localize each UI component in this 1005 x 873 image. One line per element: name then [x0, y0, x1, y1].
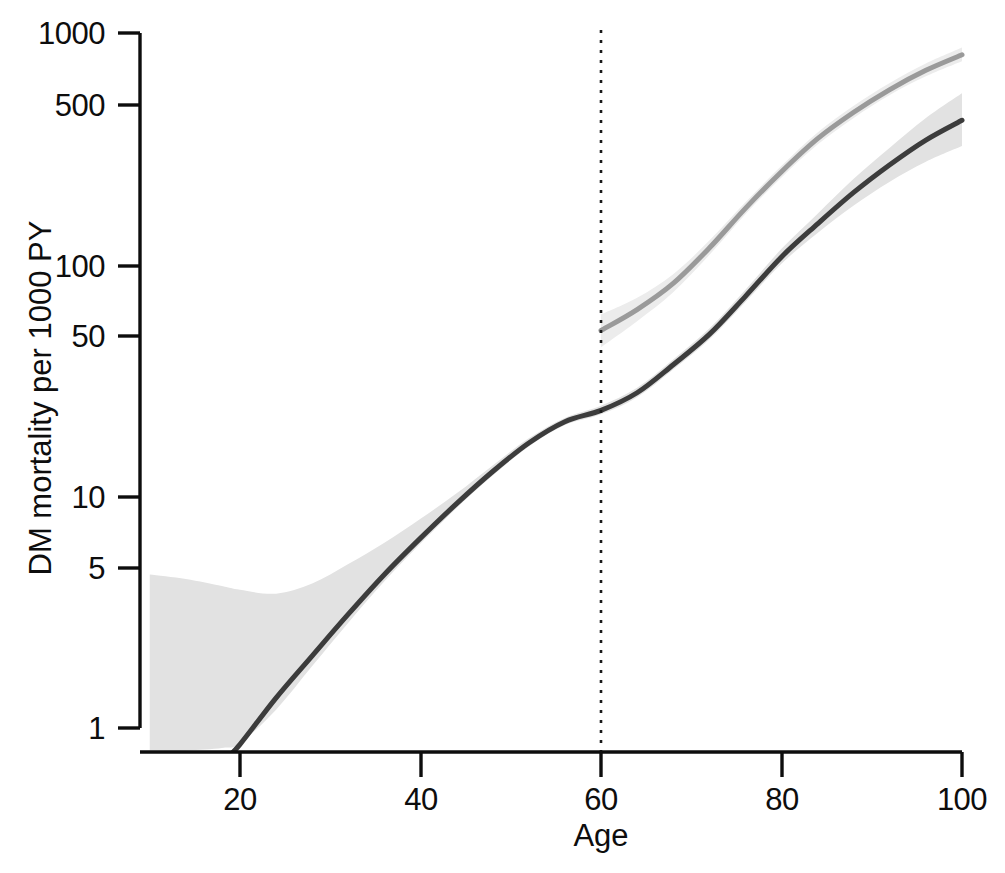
x-axis-title: Age [240, 818, 962, 854]
x-tick-label-60: 60 [584, 784, 617, 815]
y-axis [118, 33, 140, 728]
y-axis-title: DM mortality per 1000 PY [23, 118, 59, 678]
x-tick-label-20: 20 [223, 784, 256, 815]
y-tick-label-500: 500 [10, 90, 105, 121]
dark-curve-line [150, 120, 962, 849]
y-tick-label-1000: 1000 [10, 18, 105, 49]
x-tick-label-100: 100 [937, 784, 987, 815]
x-axis [140, 752, 962, 777]
dark-curve-confidence-band [150, 93, 962, 750]
gray-curve-confidence-band [601, 48, 962, 348]
x-tick-label-80: 80 [765, 784, 798, 815]
y-tick-label-1: 1 [10, 713, 105, 744]
x-tick-label-40: 40 [404, 784, 437, 815]
chart-figure: 1000 500 100 50 10 5 1 20 40 60 80 100 D… [0, 0, 1005, 873]
chart-plot-area [0, 0, 1005, 873]
